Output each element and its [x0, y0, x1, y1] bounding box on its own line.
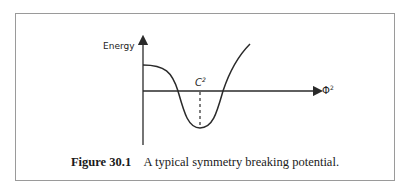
- y-axis-label: Energy: [103, 41, 135, 51]
- figure-caption: Figure 30.1 A typical symmetry breaking …: [0, 155, 410, 170]
- caption-number: Figure 30.1: [71, 155, 131, 169]
- caption-text: A typical symmetry breaking potential.: [144, 155, 339, 169]
- x-axis-label: Φ2: [322, 84, 334, 96]
- marker-label: C2: [195, 76, 206, 88]
